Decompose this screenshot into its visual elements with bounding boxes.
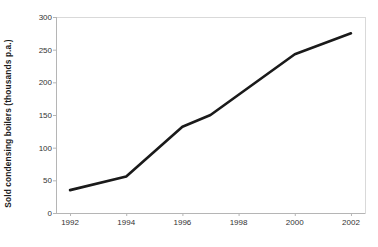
y-axis-tick-marks [53,18,56,214]
chart-container: Sold condensing boilers (thousands p.a.)… [0,0,378,247]
data-series-line [70,33,351,190]
plot-area [0,0,378,247]
series-polyline [70,33,351,190]
